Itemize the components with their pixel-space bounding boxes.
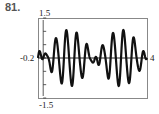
ymax-label: 1.5 [39, 9, 50, 18]
xmin-label: -0.2 [20, 54, 34, 63]
ymin-label: -1.5 [39, 101, 53, 110]
xmax-label: 4 [150, 54, 155, 63]
